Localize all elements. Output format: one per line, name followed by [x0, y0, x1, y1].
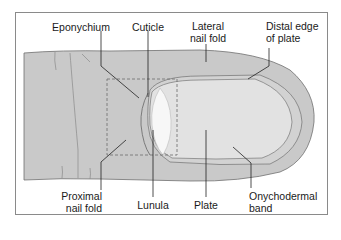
label-cuticle: Cuticle: [128, 21, 168, 33]
label-distal-edge-line1: Distal edge: [266, 20, 319, 32]
label-lateral-nail-fold-line1: Lateral: [183, 20, 233, 32]
label-proximal-nail-fold-line2: nail fold: [50, 202, 102, 214]
label-distal-edge-line2: of plate: [266, 32, 300, 44]
label-lateral-nail-fold-line2: nail fold: [183, 32, 233, 44]
label-proximal-nail-fold-line1: Proximal: [50, 190, 102, 202]
label-eponychium: Eponychium: [48, 21, 114, 33]
label-onychodermal-band-line1: Onychodermal: [249, 190, 317, 202]
label-plate: Plate: [190, 199, 222, 211]
label-lunula: Lunula: [133, 199, 173, 211]
label-onychodermal-band-line2: band: [249, 202, 272, 214]
